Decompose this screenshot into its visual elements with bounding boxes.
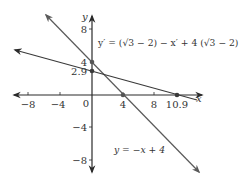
y-tick-label-m8: −8 — [72, 155, 87, 166]
point-10-9-0 — [175, 93, 180, 98]
equation-original-label: y = −x + 4 — [113, 144, 165, 155]
x-axis: −8 −4 0 4 8 10.9 x — [14, 92, 202, 110]
x-axis-label: x — [196, 93, 202, 104]
y-axis: 8 4 2.9 −4 −8 y — [71, 11, 92, 172]
y-tick-label-p8: 8 — [81, 24, 87, 35]
point-0-2-9 — [90, 69, 95, 74]
y-tick-label-m4: −4 — [72, 122, 87, 133]
x-tick-label-m4: −4 — [51, 99, 66, 110]
x-tick-label-p8: 8 — [151, 99, 157, 110]
y-axis-label: y — [81, 11, 88, 22]
point-0-4 — [90, 60, 95, 65]
chart: −8 −4 0 4 8 10.9 x 8 4 2.9 −4 −8 y y′ = … — [0, 0, 246, 186]
line-rotated — [15, 50, 197, 100]
x-tick-label-10-9: 10.9 — [166, 99, 188, 110]
equation-rotated-label: y′ = (√3 − 2) − x′ + 4 (√3 − 2) — [97, 37, 238, 48]
point-4-0 — [121, 93, 126, 98]
x-tick-label-m8: −8 — [21, 99, 36, 110]
x-tick-label-zero: 0 — [83, 98, 89, 109]
x-tick-label-p4: 4 — [120, 99, 126, 110]
